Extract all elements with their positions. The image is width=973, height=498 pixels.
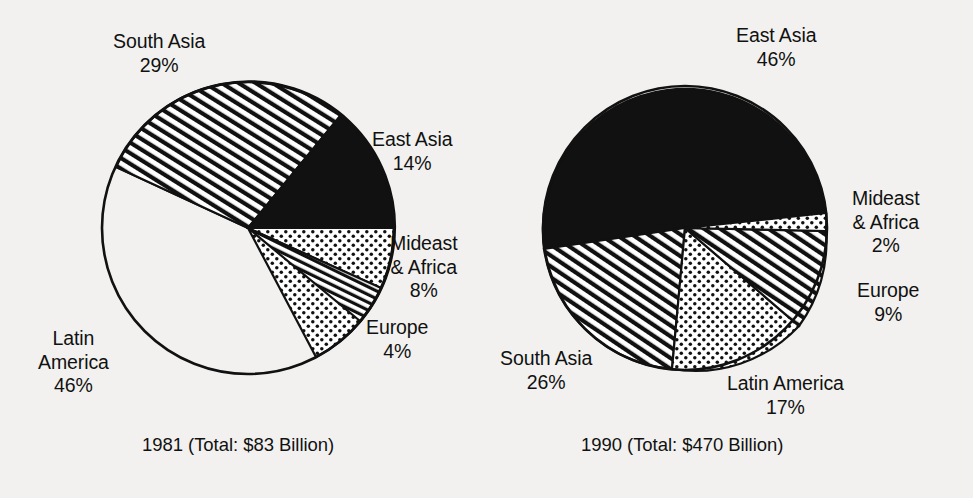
slice-label-text: Mideast xyxy=(852,187,920,211)
slice-label-text: East Asia xyxy=(372,128,452,152)
slice-label-latin-america-1990: Latin America 17% xyxy=(727,372,844,419)
slice-label-europe-1990: Europe 9% xyxy=(857,279,919,326)
slice-label-percent: 4% xyxy=(366,340,428,364)
slice-label-percent: 8% xyxy=(390,279,458,303)
pie-chart-1981: South Asia 29% East Asia 14% Mideast & A… xyxy=(0,0,490,498)
slice-label-text-2: America xyxy=(38,351,109,375)
slice-label-south-asia-1990: South Asia 26% xyxy=(500,347,592,394)
slice-label-text: Europe xyxy=(366,316,428,340)
slice-label-mideast-africa-1990: Mideast & Africa 2% xyxy=(852,187,920,258)
slice-label-percent: 46% xyxy=(38,374,109,398)
slice-label-percent: 17% xyxy=(727,396,844,420)
slice-label-percent: 9% xyxy=(857,303,919,327)
chart-caption-1990: 1990 (Total: $470 Billion) xyxy=(581,434,783,456)
slice-label-text: Europe xyxy=(857,279,919,303)
pie-chart-1990: East Asia 46% Mideast & Africa 2% Europe… xyxy=(490,0,973,498)
slice-label-percent: 26% xyxy=(500,371,592,395)
slice-label-mideast-africa-1981: Mideast & Africa 8% xyxy=(390,232,458,303)
slice-label-text: Latin America xyxy=(727,372,844,396)
slice-label-south-asia-1981: South Asia 29% xyxy=(113,30,205,77)
figure-two-pie-charts: South Asia 29% East Asia 14% Mideast & A… xyxy=(0,0,973,498)
slice-label-text: South Asia xyxy=(113,30,205,54)
slice-label-east-asia-1981: East Asia 14% xyxy=(372,128,452,175)
slice-label-text-2: & Africa xyxy=(390,256,458,280)
pie-1990-slices xyxy=(543,86,827,371)
pie-1981-slices xyxy=(102,81,395,374)
slice-label-latin-america-1981: Latin America 46% xyxy=(38,327,109,398)
chart-caption-1981: 1981 (Total: $83 Billion) xyxy=(142,434,334,456)
slice-label-percent: 14% xyxy=(372,152,452,176)
slice-label-percent: 2% xyxy=(852,234,920,258)
slice-label-east-asia-1990: East Asia 46% xyxy=(736,24,816,71)
slice-label-text: South Asia xyxy=(500,347,592,371)
slice-label-text: East Asia xyxy=(736,24,816,48)
slice-label-europe-1981: Europe 4% xyxy=(366,316,428,363)
slice-label-percent: 46% xyxy=(736,48,816,72)
slice-label-text: Mideast xyxy=(390,232,458,256)
slice-label-percent: 29% xyxy=(113,54,205,78)
slice-label-text-2: & Africa xyxy=(852,211,920,235)
slice-label-text: Latin xyxy=(38,327,109,351)
